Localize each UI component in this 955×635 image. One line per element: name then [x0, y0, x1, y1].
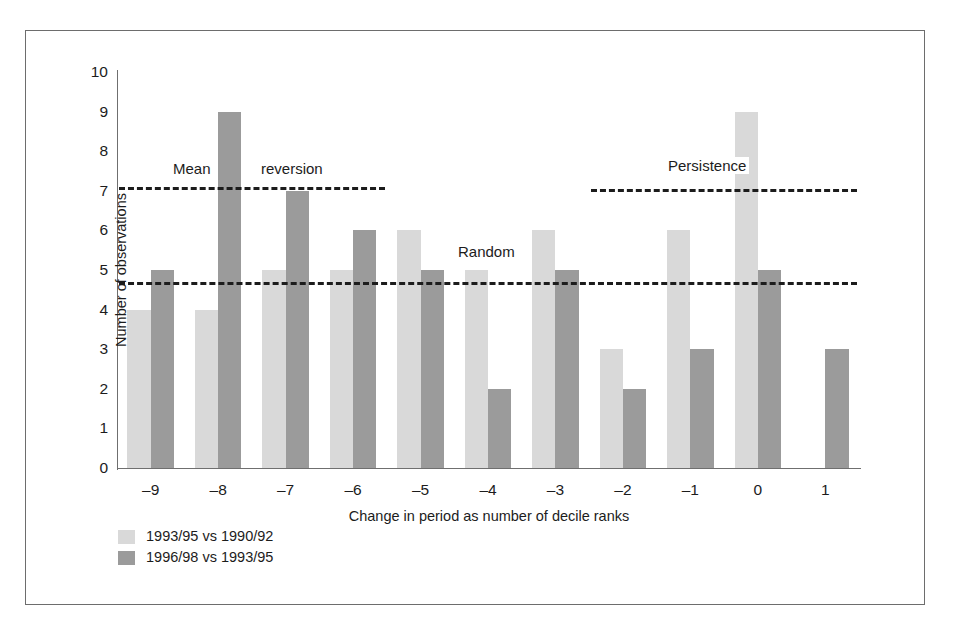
- bar: [151, 270, 174, 468]
- y-tick-label: 2: [99, 381, 108, 397]
- bar: [825, 349, 848, 468]
- figure: Number of observations Change in period …: [0, 0, 955, 635]
- plot-area: 012345678910 –9–8–7–6–5–4–3–2–101: [117, 72, 859, 468]
- x-axis-title: Change in period as number of decile ran…: [117, 508, 861, 524]
- legend-label: 1993/95 vs 1990/92: [146, 529, 273, 544]
- x-tick-label: –3: [547, 482, 564, 498]
- y-tick-label: 3: [99, 341, 108, 357]
- legend: 1993/95 vs 1990/921996/98 vs 1993/95: [118, 526, 273, 568]
- bar: [397, 230, 420, 468]
- y-tick-label: 7: [99, 183, 108, 199]
- x-tick-label: –8: [210, 482, 227, 498]
- y-tick-label: 0: [99, 460, 108, 476]
- x-tick-label: –2: [614, 482, 631, 498]
- bar: [488, 389, 511, 468]
- bar: [353, 230, 376, 468]
- y-tick-label: 8: [99, 143, 108, 159]
- y-tick-label: 4: [99, 302, 108, 318]
- bar: [330, 270, 353, 468]
- bar: [600, 349, 623, 468]
- y-tick-label: 9: [99, 104, 108, 120]
- annotation-label: Persistence: [665, 157, 749, 174]
- bar: [127, 310, 150, 468]
- bar: [465, 270, 488, 468]
- mean-reversion-line: [119, 187, 385, 190]
- legend-item: 1996/98 vs 1993/95: [118, 547, 273, 568]
- x-tick-label: –7: [277, 482, 294, 498]
- bar: [421, 270, 444, 468]
- annotation-label: Random: [455, 243, 518, 260]
- x-tick-label: –4: [479, 482, 496, 498]
- legend-item: 1993/95 vs 1990/92: [118, 526, 273, 547]
- legend-swatch: [118, 530, 135, 544]
- x-axis-line: [117, 468, 861, 469]
- annotation-label: Mean: [170, 160, 214, 177]
- y-axis-title-container: Number of observations: [0, 72, 90, 468]
- x-tick-label: –1: [682, 482, 699, 498]
- y-tick-label: 10: [91, 64, 108, 80]
- bar: [286, 191, 309, 468]
- annotation-label: reversion: [258, 160, 326, 177]
- bar: [758, 270, 781, 468]
- random-line: [119, 282, 857, 285]
- y-tick-label: 5: [99, 262, 108, 278]
- bar: [195, 310, 218, 468]
- legend-label: 1996/98 vs 1993/95: [146, 550, 273, 565]
- persistence-line: [591, 189, 857, 192]
- bar: [218, 112, 241, 468]
- x-tick-label: 1: [821, 482, 830, 498]
- y-tick-label: 1: [99, 421, 108, 437]
- bar: [623, 389, 646, 468]
- y-tick-label: 6: [99, 223, 108, 239]
- x-tick-label: –6: [344, 482, 361, 498]
- legend-swatch: [118, 551, 135, 565]
- x-tick-label: –5: [412, 482, 429, 498]
- bar: [667, 230, 690, 468]
- bar: [555, 270, 578, 468]
- bar: [532, 230, 555, 468]
- bar: [690, 349, 713, 468]
- bar: [262, 270, 285, 468]
- x-tick-label: 0: [754, 482, 763, 498]
- x-tick-label: –9: [142, 482, 159, 498]
